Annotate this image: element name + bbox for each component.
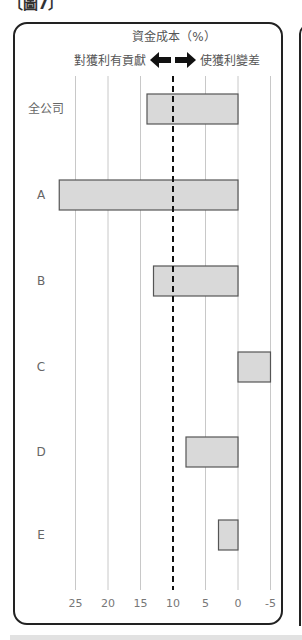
x-tick-label: 10 xyxy=(166,597,180,610)
x-tick-label: 25 xyxy=(69,597,83,610)
left-arrow-icon xyxy=(150,52,171,68)
right-arrow-icon xyxy=(175,52,196,68)
bar-chart: 資金成本（%） 對獲利有貢獻 使獲利變差 2520151050-5 全公司ABC… xyxy=(0,0,302,640)
bar-d xyxy=(186,437,238,467)
x-tick-label: 20 xyxy=(101,597,115,610)
category-label: E xyxy=(37,528,45,542)
category-label: D xyxy=(36,445,45,459)
category-label: A xyxy=(37,188,46,202)
bar-a xyxy=(59,180,238,210)
left-annotation: 對獲利有貢獻 xyxy=(74,53,146,68)
chart-title: 資金成本（%） xyxy=(132,29,215,44)
x-tick-label: 15 xyxy=(134,597,148,610)
bar-c xyxy=(238,352,271,382)
category-label: B xyxy=(37,274,45,288)
x-tick-label: 0 xyxy=(235,597,242,610)
direction-arrows xyxy=(150,52,196,68)
bar-e xyxy=(219,520,239,550)
x-tick-label: 5 xyxy=(202,597,209,610)
right-annotation: 使獲利變差 xyxy=(200,53,260,68)
x-tick-label: -5 xyxy=(265,597,276,610)
category-label: C xyxy=(37,360,45,374)
bar-b xyxy=(154,266,239,296)
bar-total xyxy=(147,94,238,124)
category-label: 全公司 xyxy=(28,101,64,116)
